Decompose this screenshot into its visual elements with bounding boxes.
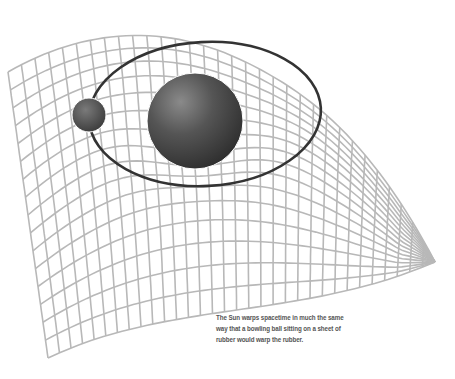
caption: The Sun warps spacetime in much the same… bbox=[216, 312, 337, 345]
caption-line: way that a bowling ball sitting on a she… bbox=[216, 323, 337, 334]
planet bbox=[72, 98, 106, 132]
sun bbox=[147, 73, 243, 169]
caption-line: The Sun warps spacetime in much the same bbox=[216, 312, 337, 323]
caption-line: rubber would warp the rubber. bbox=[216, 334, 337, 345]
